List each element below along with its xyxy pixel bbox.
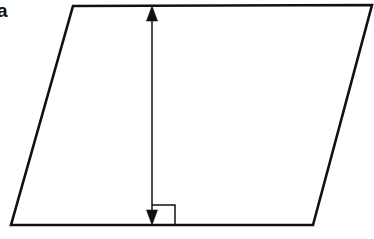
height-arrow-head-bottom — [147, 210, 158, 225]
parallelogram-outline — [11, 5, 372, 225]
geometry-figure: a — [0, 0, 374, 239]
parallelogram-diagram-svg — [0, 0, 374, 239]
height-arrow-head-top — [147, 6, 158, 21]
part-label: a — [0, 0, 8, 22]
